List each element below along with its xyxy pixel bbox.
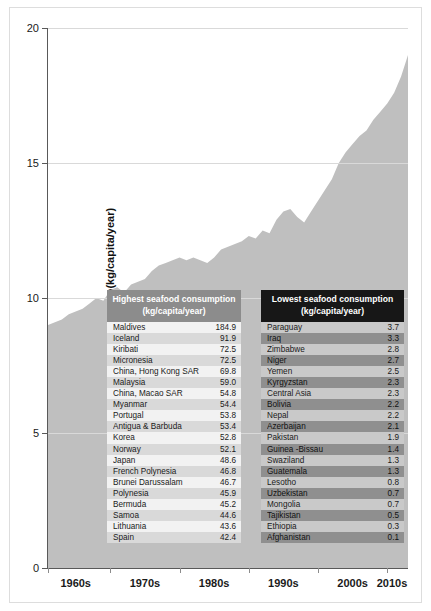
country-name: Kyrgyzstan: [267, 377, 388, 388]
country-name: Yemen: [267, 366, 388, 377]
y-tick-label: 0: [33, 562, 39, 574]
table-row: Pakistan1.9: [261, 432, 404, 443]
x-tick-label: 2010s: [377, 577, 408, 589]
lowest-table-header: Lowest seafood consumption (kg/capita/ye…: [261, 290, 404, 322]
table-row: Lithuania43.6: [107, 521, 241, 532]
country-name: Spain: [113, 532, 220, 543]
consumption-value: 0.7: [388, 499, 399, 510]
country-name: Pakistan: [267, 432, 388, 443]
consumption-value: 43.6: [220, 521, 236, 532]
country-name: Niger: [267, 355, 388, 366]
lowest-title-line1: Lowest seafood consumption: [263, 294, 402, 306]
table-row: Zimbabwe2.8: [261, 344, 404, 355]
table-row: Japan48.6: [107, 455, 241, 466]
x-tick: [249, 568, 250, 573]
table-row: Malaysia59.0: [107, 377, 241, 388]
consumption-value: 72.5: [220, 355, 236, 366]
table-row: Samoa44.6: [107, 510, 241, 521]
table-row: Ethiopia0.3: [261, 521, 404, 532]
x-tick: [180, 568, 181, 573]
consumption-value: 2.5: [388, 366, 399, 377]
consumption-value: 1.4: [388, 444, 399, 455]
country-name: Iceland: [113, 333, 220, 344]
table-row: Paraguay3.7: [261, 322, 404, 333]
country-name: Lesotho: [267, 477, 388, 488]
table-row: Swaziland1.3: [261, 455, 404, 466]
figure-root: Seafood consumption(kg/capita/year) 0510…: [0, 0, 431, 611]
lowest-table-rows: Paraguay3.7Iraq3.3Zimbabwe2.8Niger2.7Yem…: [261, 322, 404, 543]
consumption-value: 59.0: [220, 377, 236, 388]
gridline: [48, 163, 408, 164]
country-name: Norway: [113, 444, 220, 455]
country-name: Lithuania: [113, 521, 220, 532]
country-name: Myanmar: [113, 399, 220, 410]
consumption-value: 3.7: [388, 322, 399, 333]
highest-table-header: Highest seafood consumption (kg/capita/y…: [107, 290, 241, 322]
x-tick-label: 1970s: [130, 577, 161, 589]
x-tick-label: 2000s: [337, 577, 368, 589]
x-tick-label: 1980s: [199, 577, 230, 589]
consumption-value: 46.7: [220, 477, 236, 488]
table-row: Spain42.4: [107, 532, 241, 543]
consumption-value: 0.8: [388, 477, 399, 488]
consumption-value: 52.8: [220, 432, 236, 443]
table-row: Central Asia2.3: [261, 388, 404, 399]
country-name: Brunei Darussalam: [113, 477, 220, 488]
country-name: Ethiopia: [267, 521, 388, 532]
consumption-value: 42.4: [220, 532, 236, 543]
country-name: Swaziland: [267, 455, 388, 466]
consumption-value: 2.2: [388, 399, 399, 410]
consumption-value: 2.3: [388, 377, 399, 388]
country-name: Central Asia: [267, 388, 388, 399]
consumption-value: 45.2: [220, 499, 236, 510]
x-tick: [48, 568, 49, 573]
table-row: Afghanistan0.1: [261, 532, 404, 543]
country-name: Antigua & Barbuda: [113, 421, 220, 432]
table-row: French Polynesia46.8: [107, 466, 241, 477]
table-row: Maldives184.9: [107, 322, 241, 333]
lowest-title-line2: (kg/capita/year): [263, 306, 402, 318]
y-tick-label: 5: [33, 427, 39, 439]
table-row: Norway52.1: [107, 444, 241, 455]
consumption-value: 1.3: [388, 466, 399, 477]
table-row: Micronesia72.5: [107, 355, 241, 366]
country-name: Mongolia: [267, 499, 388, 510]
consumption-value: 0.3: [388, 521, 399, 532]
table-row: Guinea -Bissau1.4: [261, 444, 404, 455]
highest-table-rows: Maldives184.9Iceland91.9Kiribati72.5Micr…: [107, 322, 241, 543]
country-name: Zimbabwe: [267, 344, 388, 355]
country-name: Tajikistan: [267, 510, 388, 521]
consumption-value: 69.8: [220, 366, 236, 377]
country-name: Azerbaijan: [267, 421, 388, 432]
table-row: Niger2.7: [261, 355, 404, 366]
consumption-value: 72.5: [220, 344, 236, 355]
consumption-value: 91.9: [220, 333, 236, 344]
table-row: Portugal53.8: [107, 410, 241, 421]
consumption-value: 2.7: [388, 355, 399, 366]
country-name: China, Hong Kong SAR: [113, 366, 220, 377]
highest-consumption-table: Highest seafood consumption (kg/capita/y…: [107, 290, 241, 543]
y-tick-label: 10: [27, 292, 39, 304]
highest-title-line2: (kg/capita/year): [109, 306, 239, 318]
consumption-value: 2.2: [388, 410, 399, 421]
y-tick: [42, 163, 48, 164]
country-name: Kiribati: [113, 344, 220, 355]
table-row: Korea52.8: [107, 432, 241, 443]
consumption-value: 54.8: [220, 388, 236, 399]
country-name: Maldives: [113, 322, 216, 333]
consumption-value: 53.4: [220, 421, 236, 432]
consumption-value: 2.3: [388, 388, 399, 399]
table-row: Nepal2.2: [261, 410, 404, 421]
country-name: Guinea -Bissau: [267, 444, 388, 455]
consumption-value: 3.3: [388, 333, 399, 344]
table-row: China, Macao SAR54.8: [107, 388, 241, 399]
table-row: Azerbaijan2.1: [261, 421, 404, 432]
country-name: Micronesia: [113, 355, 220, 366]
country-name: Bolivia: [267, 399, 388, 410]
table-row: Iceland91.9: [107, 333, 241, 344]
country-name: Afghanistan: [267, 532, 388, 543]
consumption-value: 184.9: [216, 322, 237, 333]
x-tick: [318, 568, 319, 573]
country-name: Guatemala: [267, 466, 388, 477]
consumption-value: 48.6: [220, 455, 236, 466]
